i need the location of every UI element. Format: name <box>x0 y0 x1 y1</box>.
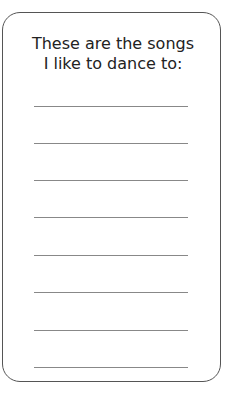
title-line-2: I like to dance to: <box>0 54 226 74</box>
card-title: These are the songs I like to dance to: <box>0 34 226 74</box>
blank-line-4[interactable] <box>34 217 188 218</box>
blank-line-8[interactable] <box>34 367 188 368</box>
blank-line-3[interactable] <box>34 180 188 181</box>
title-line-1: These are the songs <box>0 34 226 54</box>
blank-line-6[interactable] <box>34 292 188 293</box>
blank-line-2[interactable] <box>34 143 188 144</box>
blank-line-1[interactable] <box>34 106 188 107</box>
blank-line-5[interactable] <box>34 255 188 256</box>
blank-line-7[interactable] <box>34 330 188 331</box>
